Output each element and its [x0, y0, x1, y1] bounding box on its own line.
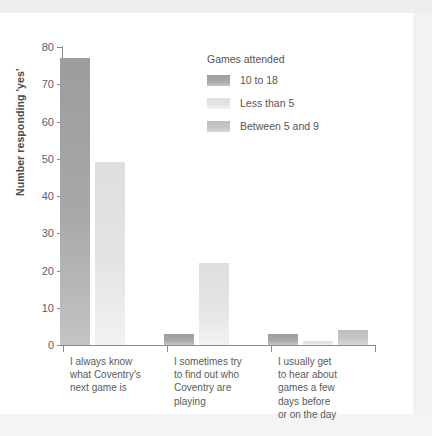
legend: Games attended 10 to 18Less than 5Betwee… — [207, 53, 319, 140]
bar — [199, 263, 229, 345]
bar — [338, 330, 368, 345]
axis-end-cap — [63, 345, 64, 352]
chart-card: Number responding 'yes' 0102030405060708… — [0, 13, 413, 414]
axis-end-cap — [375, 345, 376, 352]
y-tick-label: 0 — [48, 339, 54, 351]
legend-title: Games attended — [207, 53, 319, 65]
category-separator — [167, 345, 168, 352]
legend-items: 10 to 18Less than 5Between 5 and 9 — [207, 71, 319, 135]
y-tick-label: 50 — [42, 153, 54, 165]
legend-item-label: Less than 5 — [240, 97, 294, 109]
legend-item-label: 10 to 18 — [240, 74, 278, 86]
legend-item: Less than 5 — [207, 94, 319, 112]
category-label: I usually get to hear about games a few … — [278, 355, 372, 421]
page-right-strip — [413, 13, 432, 414]
legend-item: Between 5 and 9 — [207, 117, 319, 135]
legend-swatch — [207, 98, 230, 109]
y-tick-mark — [57, 47, 63, 48]
y-tick-label: 60 — [42, 116, 54, 128]
bar — [164, 334, 194, 345]
y-tick-label: 10 — [42, 302, 54, 314]
chart-page: Number responding 'yes' 0102030405060708… — [0, 0, 432, 436]
page-top-band — [0, 0, 432, 13]
y-tick-label: 20 — [42, 265, 54, 277]
legend-swatch — [207, 121, 230, 132]
legend-item-label: Between 5 and 9 — [240, 120, 319, 132]
bar — [303, 341, 333, 345]
y-axis-title: Number responding 'yes' — [14, 69, 26, 197]
bar — [95, 162, 125, 345]
x-axis-line — [62, 345, 375, 346]
y-tick-label: 70 — [42, 78, 54, 90]
legend-item: 10 to 18 — [207, 71, 319, 89]
category-label: I sometimes try to find out who Coventry… — [174, 355, 268, 408]
y-tick-label: 40 — [42, 190, 54, 202]
bar — [268, 334, 298, 345]
category-label: I always know what Coventry's next game … — [70, 355, 164, 395]
y-tick-label: 30 — [42, 227, 54, 239]
category-separator — [271, 345, 272, 352]
legend-swatch — [207, 75, 230, 86]
y-tick-label: 80 — [42, 41, 54, 53]
bar — [60, 58, 90, 345]
